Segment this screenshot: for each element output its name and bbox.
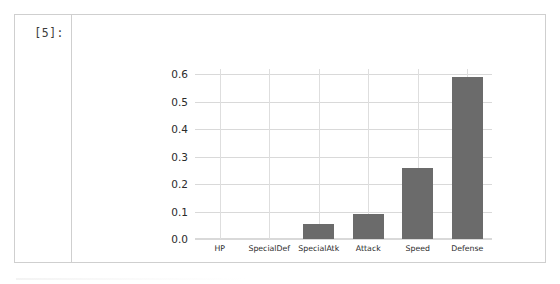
- cell-output-area: 0.00.10.20.30.40.50.6HPSpecialDefSpecial…: [72, 15, 545, 262]
- x-axis-tick-label: SpecialAtk: [298, 244, 339, 253]
- y-gridline: [195, 102, 492, 103]
- x-axis-tick-label: HP: [214, 244, 225, 253]
- y-axis-tick-label: 0.4: [171, 123, 188, 135]
- bar-defense: [452, 77, 483, 239]
- x-axis-tick-label: Speed: [406, 244, 430, 253]
- cell-execution-count: [5]:: [34, 26, 64, 40]
- x-gridline: [319, 69, 320, 239]
- y-gridline: [195, 74, 492, 75]
- bar-specialatk: [303, 224, 334, 239]
- y-gridline: [195, 184, 492, 185]
- notebook-output-cell: [5]: 0.00.10.20.30.40.50.6HPSpecialDefSp…: [14, 14, 546, 263]
- y-gridline: [195, 212, 492, 213]
- y-axis-tick-label: 0.6: [171, 68, 188, 80]
- x-axis-tick-label: SpecialDef: [248, 244, 290, 253]
- bar-chart-axes: 0.00.10.20.30.40.50.6HPSpecialDefSpecial…: [195, 69, 492, 239]
- x-gridline: [220, 69, 221, 239]
- y-gridline: [195, 129, 492, 130]
- screenshot-root: [5]: 0.00.10.20.30.40.50.6HPSpecialDefSp…: [0, 0, 560, 284]
- y-axis-tick-label: 0.5: [171, 96, 188, 108]
- y-axis-tick-label: 0.3: [171, 151, 188, 163]
- y-axis-tick-label: 0.2: [171, 178, 188, 190]
- matplotlib-figure: 0.00.10.20.30.40.50.6HPSpecialDefSpecial…: [72, 15, 545, 262]
- y-gridline: [195, 239, 492, 240]
- x-axis-tick-label: Attack: [356, 244, 381, 253]
- x-axis-tick-label: Defense: [451, 244, 483, 253]
- page-scan-artifact: [16, 278, 246, 280]
- y-gridline: [195, 157, 492, 158]
- bar-speed: [402, 168, 433, 239]
- bar-attack: [353, 214, 384, 239]
- x-gridline: [269, 69, 270, 239]
- cell-prompt-gutter: [5]:: [15, 15, 72, 262]
- y-axis-tick-label: 0.1: [171, 206, 188, 218]
- y-axis-tick-label: 0.0: [171, 233, 188, 245]
